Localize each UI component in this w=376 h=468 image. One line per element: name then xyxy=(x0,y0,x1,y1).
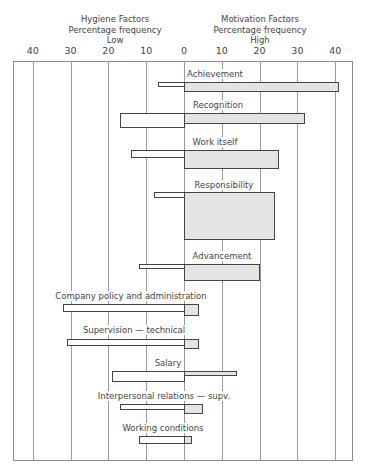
gridline xyxy=(71,61,72,461)
x-tick-label: 40 xyxy=(329,45,341,56)
low-bar xyxy=(139,436,185,444)
category-label: Recognition xyxy=(191,100,245,110)
header-line: Motivation Factors xyxy=(200,14,320,25)
category-label: Advancement xyxy=(191,251,254,261)
category-label: Achievement xyxy=(185,69,245,79)
high-bar xyxy=(184,192,275,240)
header-line: Hygiene Factors xyxy=(55,14,175,25)
gridline xyxy=(335,61,336,461)
gridline xyxy=(33,61,34,461)
low-bar xyxy=(154,192,185,198)
category-label: Work itself xyxy=(191,137,240,147)
low-bar xyxy=(120,113,185,128)
motivation-header: Motivation Factors Percentage frequency … xyxy=(200,14,320,46)
x-tick-label: 30 xyxy=(65,45,77,56)
x-tick-label: 0 xyxy=(181,45,187,56)
high-bar xyxy=(184,339,199,349)
high-bar xyxy=(184,264,260,281)
category-label: Responsibility xyxy=(193,180,256,190)
x-tick-label: 20 xyxy=(102,45,114,56)
header-line: Low xyxy=(55,35,175,46)
high-bar xyxy=(184,371,237,376)
x-tick-label: 10 xyxy=(216,45,228,56)
high-bar xyxy=(184,304,199,316)
low-bar xyxy=(120,404,185,410)
low-bar xyxy=(67,339,185,346)
low-bar xyxy=(131,150,185,158)
high-bar xyxy=(184,150,279,169)
category-label: Supervision — technical xyxy=(81,325,187,335)
low-bar xyxy=(112,371,185,382)
header-line: Percentage frequency xyxy=(200,25,320,36)
x-tick-label: 40 xyxy=(27,45,39,56)
category-label: Salary xyxy=(153,358,184,368)
x-tick-label: 20 xyxy=(254,45,266,56)
category-label: Interpersonal relations — supv. xyxy=(96,391,232,401)
x-tick-label: 10 xyxy=(140,45,152,56)
high-bar xyxy=(184,82,339,92)
low-bar xyxy=(63,304,185,312)
high-bar xyxy=(184,113,305,124)
low-bar xyxy=(139,264,185,269)
category-label: Company policy and administration xyxy=(53,291,208,301)
low-bar xyxy=(158,82,185,87)
x-tick-label: 30 xyxy=(291,45,303,56)
header-line: High xyxy=(200,35,320,46)
header-line: Percentage frequency xyxy=(55,25,175,36)
high-bar xyxy=(184,404,203,414)
gridline xyxy=(108,61,109,461)
category-label: Working conditions xyxy=(120,423,205,433)
high-bar xyxy=(184,436,192,444)
hygiene-header: Hygiene Factors Percentage frequency Low xyxy=(55,14,175,46)
